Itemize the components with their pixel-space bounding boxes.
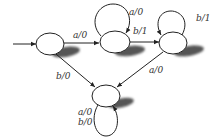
label-s3-s4: a/0 bbox=[149, 65, 163, 75]
loop-s3 bbox=[158, 11, 185, 35]
label-s2-loop: a/0 bbox=[129, 7, 143, 17]
state-s2 bbox=[100, 31, 130, 53]
label-s1-s4: b/0 bbox=[56, 71, 71, 81]
state-shadows bbox=[51, 43, 204, 110]
label-s3-loop: b/1 bbox=[196, 13, 211, 23]
label-s4-loop-b: b/0 bbox=[78, 117, 93, 127]
label-s4-loop-a: a/0 bbox=[78, 107, 92, 117]
loop-s4 bbox=[94, 105, 117, 136]
state-s1 bbox=[36, 33, 64, 55]
label-s1-s2: a/0 bbox=[73, 30, 87, 40]
state-s4 bbox=[92, 85, 120, 107]
state-diagram: a/0 a/0 b/1 b/1 b/0 a/0 a/0 b/0 bbox=[0, 0, 218, 140]
state-s3 bbox=[159, 32, 187, 54]
label-s2-s3: b/1 bbox=[133, 26, 148, 36]
